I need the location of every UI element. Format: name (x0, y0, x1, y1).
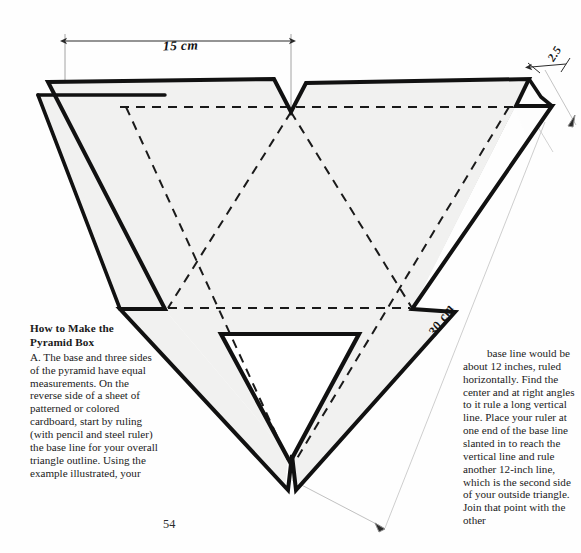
book-page: 15 cm 30 cm 2.5 How to Make the Pyramid … (0, 0, 581, 553)
left-text-column: How to Make the Pyramid Box A. The base … (30, 322, 162, 479)
section-heading-line2: Pyramid Box (30, 336, 162, 349)
left-body-text: A. The base and three sides of the pyram… (30, 351, 162, 480)
page-number: 54 (163, 517, 175, 532)
right-text-column: base line would be about 12 inches, rule… (463, 347, 575, 527)
dimension-line-flap (531, 64, 566, 67)
section-heading-line1: How to Make the (30, 322, 162, 335)
extension-line-bottom (292, 480, 384, 528)
dimension-label-15cm: 15 cm (163, 38, 198, 55)
flap-guide-right (545, 70, 576, 125)
right-body-text: base line would be about 12 inches, rule… (463, 347, 575, 527)
tick-flap-bottom (561, 58, 570, 72)
tick-flap-top (528, 63, 540, 73)
